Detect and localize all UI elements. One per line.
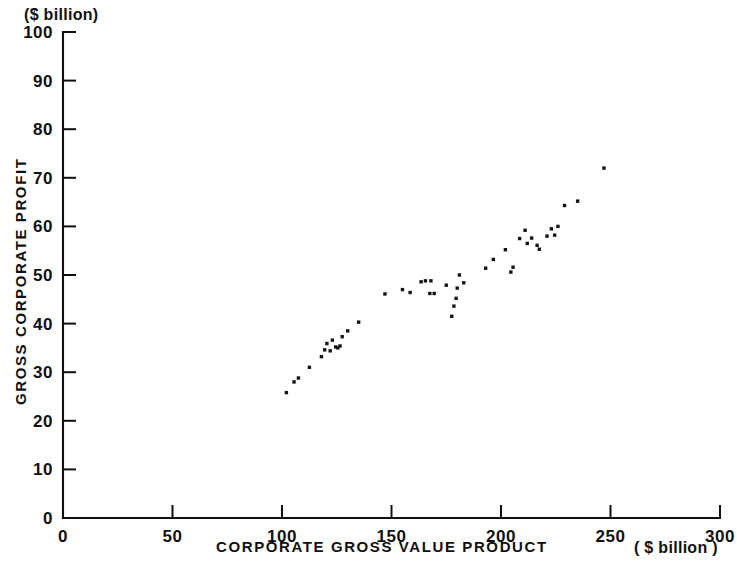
data-point: [523, 229, 526, 232]
axis-lines: [63, 32, 720, 518]
data-point: [511, 266, 514, 269]
y-tick-label-80: 80: [33, 120, 53, 139]
y-tick-label-0: 0: [43, 509, 53, 528]
y-tick-label-90: 90: [33, 72, 53, 91]
x-tick-label-300: 300: [705, 527, 735, 546]
y-tick-label-10: 10: [33, 460, 53, 479]
data-point: [346, 329, 349, 332]
y-tick-label-100: 100: [23, 23, 53, 42]
data-point: [550, 227, 553, 230]
data-point: [556, 225, 559, 228]
data-point: [285, 391, 288, 394]
data-point: [518, 237, 521, 240]
data-point: [553, 233, 556, 236]
data-point: [341, 335, 344, 338]
y-axis-title: GROSS CORPORATE PROFIT: [12, 158, 29, 405]
data-point: [323, 348, 326, 351]
data-point: [325, 342, 328, 345]
x-tick-label-200: 200: [486, 527, 516, 546]
scatter-chart-figure: ($ billion) GROSS CORPORATE PROFIT CORPO…: [0, 0, 737, 569]
scatter-plot-svg: ($ billion) GROSS CORPORATE PROFIT CORPO…: [0, 0, 737, 569]
data-point: [538, 248, 541, 251]
data-point: [338, 344, 341, 347]
data-point: [401, 288, 404, 291]
data-point: [424, 279, 427, 282]
y-tick-label-20: 20: [33, 412, 53, 431]
data-point: [408, 291, 411, 294]
data-point: [331, 338, 334, 341]
x-tick-label-0: 0: [58, 527, 68, 546]
data-point: [328, 349, 331, 352]
data-point: [484, 267, 487, 270]
data-point: [433, 292, 436, 295]
data-point: [320, 355, 323, 358]
data-point: [602, 166, 605, 169]
data-point: [429, 279, 432, 282]
data-point: [545, 234, 548, 237]
data-point: [297, 376, 300, 379]
data-point: [445, 284, 448, 287]
data-points-layer: [285, 166, 606, 394]
y-axis-unit-label: ($ billion): [24, 6, 98, 23]
y-tick-label-70: 70: [33, 169, 53, 188]
data-point: [452, 304, 455, 307]
data-point: [462, 281, 465, 284]
data-point: [504, 248, 507, 251]
y-tick-label-60: 60: [33, 217, 53, 236]
data-point: [456, 286, 459, 289]
y-tick-label-50: 50: [33, 266, 53, 285]
y-tick-label-40: 40: [33, 315, 53, 334]
data-point: [357, 320, 360, 323]
data-point: [419, 280, 422, 283]
data-point: [576, 199, 579, 202]
data-point: [458, 273, 461, 276]
x-tick-label-100: 100: [267, 527, 297, 546]
data-point: [428, 292, 431, 295]
y-tick-label-30: 30: [33, 363, 53, 382]
data-point: [383, 292, 386, 295]
x-axis-ticks: [173, 505, 611, 518]
x-tick-label-50: 50: [163, 527, 183, 546]
data-point: [492, 258, 495, 261]
data-point: [530, 236, 533, 239]
data-point: [509, 270, 512, 273]
data-point: [535, 244, 538, 247]
data-point: [450, 315, 453, 318]
data-point: [454, 297, 457, 300]
x-tick-label-250: 250: [596, 527, 626, 546]
data-point: [308, 366, 311, 369]
x-tick-label-150: 150: [377, 527, 407, 546]
data-point: [563, 204, 566, 207]
data-point: [526, 242, 529, 245]
data-point: [292, 380, 295, 383]
y-axis-ticks: [63, 32, 76, 469]
